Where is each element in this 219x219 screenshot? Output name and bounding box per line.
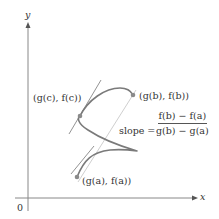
point-a-label: (g(a), f(a)) [82,176,131,186]
parametric-mean-value-diagram: y x 0 (g(c), f(c)) (g(b), f(b)) (g(a), f… [0,0,219,219]
x-axis-label: x [200,192,205,202]
y-axis-arrow-icon [26,22,31,28]
slope-label: slope = [119,126,155,136]
slope-numerator: f(b) − f(a) [158,111,208,124]
point-a [75,175,80,180]
x-axis-arrow-icon [192,196,198,201]
tangent-line-lower [71,146,94,174]
origin-label: 0 [17,203,23,213]
slope-fraction: f(b) − f(a) g(b) − g(a) [156,111,209,135]
slope-denominator: g(b) − g(a) [156,124,209,136]
point-b [131,93,136,98]
point-c-label: (g(c), f(c)) [33,93,82,103]
point-b-label: (g(b), f(b)) [139,91,189,101]
y-axis-label: y [25,10,30,20]
point-c [78,114,83,119]
